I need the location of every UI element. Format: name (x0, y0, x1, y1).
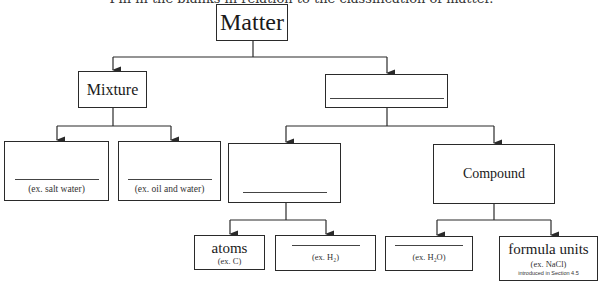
mixture-box: Mixture (78, 71, 147, 108)
element-blank[interactable] (243, 192, 327, 193)
homogeneous-mixture-blank[interactable] (15, 179, 99, 180)
heterogeneous-mixture-box: (ex. oil and water) (118, 141, 221, 201)
formula-units-note: introduced in Section 4.5 (518, 270, 579, 276)
atoms-box: atoms (ex. C) (194, 235, 265, 270)
pure-substance-box (325, 74, 448, 108)
mixture-label: Mixture (87, 81, 139, 99)
pure-substance-blank[interactable] (330, 98, 444, 99)
molecules-element-blank[interactable] (292, 245, 360, 246)
formula-units-label: formula units (508, 241, 588, 258)
molecules-compound-example: (ex. H₂O) (412, 252, 445, 262)
matter-box: Matter (216, 4, 288, 41)
molecules-compound-box: (ex. H₂O) (385, 236, 473, 271)
compound-label: Compound (463, 166, 525, 182)
heterogeneous-mixture-example: (ex. oil and water) (135, 184, 205, 194)
formula-units-example: (ex. NaCl) (531, 258, 567, 270)
heterogeneous-mixture-blank[interactable] (128, 179, 212, 180)
formula-units-box: formula units (ex. NaCl) introduced in S… (499, 236, 598, 281)
matter-label: Matter (220, 9, 284, 36)
atoms-label: atoms (212, 240, 248, 256)
atoms-example: (ex. C) (218, 256, 242, 266)
element-box (228, 143, 341, 203)
molecules-element-example: (ex. H₂) (312, 252, 339, 262)
homogeneous-mixture-example: (ex. salt water) (28, 184, 85, 194)
compound-box: Compound (433, 144, 555, 204)
molecules-compound-blank[interactable] (395, 245, 463, 246)
homogeneous-mixture-box: (ex. salt water) (4, 141, 109, 201)
molecules-element-box: (ex. H₂) (275, 235, 376, 271)
